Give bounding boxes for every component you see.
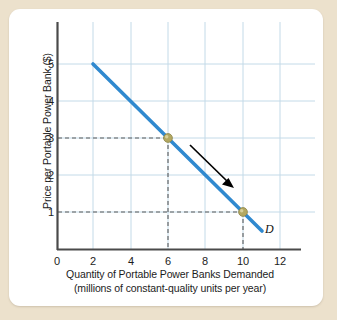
marker-point-6-3 (164, 134, 173, 143)
x-tick-8: 8 (195, 255, 215, 267)
x-tick-0: 0 (47, 255, 67, 267)
x-tick-2: 2 (83, 255, 103, 267)
marker-point-10-1 (239, 208, 248, 217)
y-tick-4: 4 (38, 95, 54, 107)
x-axis-label: Quantity of Portable Power Banks Demande… (20, 268, 320, 295)
demand-curve-label: D (265, 222, 274, 237)
y-tick-3: 3 (38, 132, 54, 144)
y-tick-1: 1 (38, 206, 54, 218)
x-tick-10: 10 (233, 255, 253, 267)
demand-curve-line (93, 64, 262, 231)
x-tick-12: 12 (270, 255, 290, 267)
y-tick-2: 2 (38, 169, 54, 181)
y-tick-5: 5 (38, 58, 54, 70)
vertical-gridlines (93, 22, 280, 249)
figure-root: Price per Portable Power Bank ($) 5 4 3 … (0, 0, 337, 320)
x-axis-label-line2: (millions of constant-quality units per … (20, 282, 320, 296)
x-axis-label-line1: Quantity of Portable Power Banks Demande… (20, 268, 320, 282)
x-tick-4: 4 (121, 255, 141, 267)
dashed-guides (58, 138, 243, 249)
x-tick-6: 6 (158, 255, 178, 267)
